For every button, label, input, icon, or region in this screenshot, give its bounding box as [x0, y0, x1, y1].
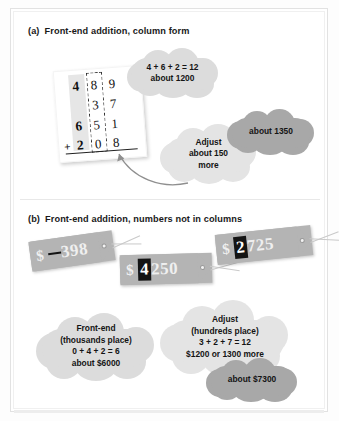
price-tag-398-rest: 398 — [60, 239, 90, 263]
price-tag-4250-highlight: 4 — [138, 258, 152, 280]
price-tag-4250-value: $4250 — [126, 254, 179, 285]
row-2-hundreds — [68, 106, 86, 107]
row-1-hundreds: 4 — [66, 78, 85, 95]
row-1-ones: 9 — [102, 75, 121, 92]
row-3-tens: 5 — [87, 117, 106, 134]
figure-root: (a)Front-end addition, column form 4 8 9… — [0, 0, 339, 421]
price-tag-2725: $2725 — [215, 225, 314, 265]
figure-bottom-shadow — [14, 410, 324, 413]
panel-b-label: (b) — [28, 214, 40, 224]
cloud-front-end-thousands: Front-end (thousands place) 0 + 4 + 2 = … — [36, 311, 156, 381]
panel-a-title: (a)Front-end addition, column form — [28, 26, 190, 36]
price-tag-398-highlight — [48, 252, 61, 256]
panel-divider — [20, 199, 320, 200]
price-tag-2725-currency: $ — [221, 240, 231, 258]
price-tag-398-currency: $ — [35, 246, 45, 264]
cloud-answer-1350-text: about 1350 — [243, 126, 299, 138]
cloud-answer-1350: about 1350 — [227, 109, 315, 155]
panel-a-title-text: Front-end addition, column form — [45, 26, 190, 36]
panel-b-title-text: Front-end addition, numbers not in colum… — [45, 214, 242, 224]
row-3-operator — [62, 127, 70, 128]
cloud-adjust-hundreds-text: Adjust (hundreds place) 3 + 2 + 7 = 12 $… — [180, 314, 270, 360]
row-1-tens: 8 — [84, 77, 103, 94]
panel-a: (a)Front-end addition, column form 4 8 9… — [20, 16, 320, 198]
price-tag-2725-value: $2725 — [221, 229, 276, 264]
row-3-ones: 1 — [105, 115, 124, 132]
cloud-adjust-tens-text: Adjust about 150 more — [183, 137, 234, 172]
price-tag-398: $ 398 — [28, 230, 115, 271]
price-tag-4250: $4250 — [120, 253, 213, 285]
price-tag-398-value: $ 398 — [34, 234, 90, 271]
row-2-ones: 7 — [104, 95, 123, 112]
price-tag-4250-rest: 250 — [151, 259, 179, 280]
row-2-tens: 3 — [86, 97, 105, 114]
panel-b: (b)Front-end addition, numbers not in co… — [20, 206, 320, 402]
row-3-hundreds: 6 — [69, 118, 88, 135]
price-tag-4250-currency: $ — [126, 261, 134, 278]
row-1-operator — [59, 87, 67, 88]
cloud-answer-7300-text: about $7300 — [222, 374, 282, 386]
cloud-front-end-hundreds-text: 4 + 6 + 2 = 12 about 1200 — [141, 62, 205, 85]
panel-a-label: (a) — [28, 26, 40, 36]
row-2-operator — [60, 107, 68, 108]
price-tag-2725-rest: 725 — [246, 234, 275, 257]
cloud-front-end-hundreds: 4 + 6 + 2 = 12 about 1200 — [125, 48, 220, 98]
cloud-front-end-thousands-text: Front-end (thousands place) 0 + 4 + 2 = … — [54, 323, 138, 369]
panel-b-title: (b)Front-end addition, numbers not in co… — [28, 214, 242, 224]
